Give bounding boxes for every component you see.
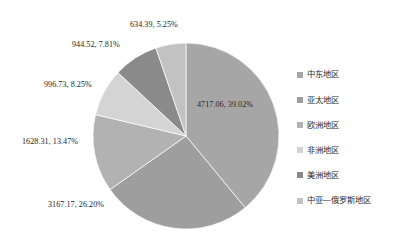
legend-item[interactable]: 欧洲地区: [297, 112, 408, 137]
legend-swatch-icon: [297, 172, 303, 178]
legend-swatch-icon: [297, 122, 303, 128]
legend-item[interactable]: 非洲地区: [297, 138, 408, 163]
pie-slices-group: [93, 43, 279, 229]
legend-item-label: 非洲地区: [307, 146, 339, 154]
data-label-europe: 1628.31, 13.47%: [22, 137, 78, 146]
legend-swatch-icon: [297, 72, 303, 78]
legend-item-label: 中东地区: [307, 70, 339, 78]
legend-item-label: 中亚—俄罗斯地区: [307, 196, 371, 204]
legend-swatch-icon: [297, 147, 303, 153]
pie-chart: 634.39, 5.25% 944.52, 7.81% 996.73, 8.25…: [0, 0, 408, 240]
data-label-africa: 996.73, 8.25%: [44, 80, 92, 89]
legend-swatch-icon: [297, 97, 303, 103]
legend-item[interactable]: 中东地区: [297, 62, 408, 87]
legend-item-label: 欧洲地区: [307, 121, 339, 129]
legend-item-label: 美洲地区: [307, 171, 339, 179]
legend-item[interactable]: 亚太地区: [297, 87, 408, 112]
data-label-middle-east: 4717.06, 39.02%: [197, 100, 253, 109]
chart-legend: 中东地区亚太地区欧洲地区非洲地区美洲地区中亚—俄罗斯地区: [297, 62, 408, 214]
legend-item-label: 亚太地区: [307, 96, 339, 104]
data-label-asia-pacific: 3167.17, 26.20%: [48, 200, 104, 209]
legend-item[interactable]: 中亚—俄罗斯地区: [297, 188, 408, 213]
data-label-central-asia-russia: 634.39, 5.25%: [130, 20, 178, 29]
legend-swatch-icon: [297, 198, 303, 204]
legend-item[interactable]: 美洲地区: [297, 163, 408, 188]
data-label-americas: 944.52, 7.81%: [72, 40, 120, 49]
